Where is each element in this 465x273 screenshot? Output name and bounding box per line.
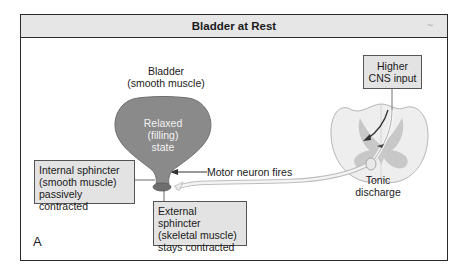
spinal-cord-icon [331,104,428,182]
tonic-discharge-label: Tonic discharge [348,174,408,198]
tonic-line1: Tonic [348,174,408,186]
state-line2: (filling) [133,129,193,141]
state-line1: Relaxed [133,117,193,129]
external-sphincter-box: External sphincter (skeletal muscle) sta… [153,201,247,246]
internal-sphincter-box: Internal sphincter (smooth muscle) passi… [34,160,135,204]
bladder-label-line1: Bladder [116,65,216,77]
internal-line3: passively contracted [39,188,130,212]
internal-line1: Internal sphincter [39,164,130,176]
bladder-label: Bladder (smooth muscle) [116,65,216,89]
panel-letter: A [33,234,42,249]
tonic-line2: discharge [348,186,408,198]
cns-line1: Higher [368,60,417,72]
sphincter-ring [153,183,171,191]
bladder-label-line2: (smooth muscle) [116,77,216,89]
state-line3: state [133,141,193,153]
external-line2: (skeletal muscle) [158,229,242,241]
cns-line2: CNS input [368,72,417,84]
external-line3: stays contracted [158,241,242,253]
internal-line2: (smooth muscle) [39,176,130,188]
bladder-state-label: Relaxed (filling) state [133,117,193,153]
higher-cns-box: Higher CNS input [363,55,422,89]
motor-neuron-label: Motor neuron fires [207,166,307,178]
external-line1: External sphincter [158,205,242,229]
motor-arrow [170,169,207,175]
